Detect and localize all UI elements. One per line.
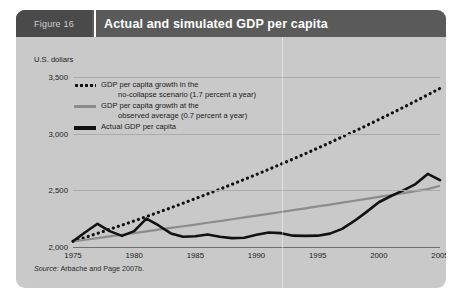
- gridline: [73, 77, 440, 78]
- legend-label-line1: Actual GDP per capita: [101, 122, 176, 131]
- y-axis-tick-label: 3,500: [28, 73, 68, 82]
- scan-artifact-line: [282, 37, 283, 288]
- source-note: Source: Arbache and Page 2007b.: [34, 264, 144, 273]
- legend-swatch-observed-average: [74, 105, 96, 108]
- y-axis-tick-label: 3,000: [28, 129, 68, 138]
- legend-swatch-actual: [74, 126, 96, 130]
- legend-item-observed-average: GDP per capita growth at theobserved ave…: [74, 101, 324, 120]
- legend-item-actual: Actual GDP per capita: [74, 122, 324, 132]
- figure-panel: Figure 16 Actual and simulated GDP per c…: [16, 10, 446, 288]
- plot-area: 2,0002,5003,0003,500 1975198019851990199…: [16, 37, 446, 288]
- x-axis-line: [73, 247, 440, 248]
- x-axis-tick-label: 1975: [53, 251, 93, 260]
- gridline: [73, 190, 440, 191]
- legend-swatch-no-collapse: [74, 84, 96, 87]
- x-axis-tick-label: 1995: [298, 251, 338, 260]
- header-divider: [94, 10, 96, 37]
- x-axis-tick-label: 2000: [359, 251, 399, 260]
- series-line-actual: [73, 174, 440, 241]
- figure-number-label: Figure 16: [34, 19, 74, 29]
- x-axis-tick-label: 2005: [420, 251, 446, 260]
- y-axis-tick-label: 2,500: [28, 186, 68, 195]
- figure-number-box: Figure 16: [16, 10, 92, 37]
- legend-label-line2: observed average (0.7 percent a year): [101, 111, 324, 121]
- legend-item-no-collapse: GDP per capita growth in theno-collapse …: [74, 80, 324, 99]
- source-text: Arbache and Page 2007b.: [59, 264, 144, 273]
- figure-title: Actual and simulated GDP per capita: [104, 10, 328, 37]
- x-axis-tick-label: 1985: [175, 251, 215, 260]
- legend-label-actual: Actual GDP per capita: [101, 122, 324, 132]
- legend-label-line1: GDP per capita growth in the: [101, 80, 198, 89]
- legend-label-observed-average: GDP per capita growth at theobserved ave…: [101, 101, 324, 120]
- legend-label-no-collapse: GDP per capita growth in theno-collapse …: [101, 80, 324, 99]
- source-prefix: Source:: [34, 264, 59, 273]
- legend-label-line2: no-collapse scenario (1.7 percent a year…: [101, 90, 324, 100]
- x-axis-tick-label: 1990: [237, 251, 277, 260]
- figure-body: U.S. dollars 2,0002,5003,0003,500 197519…: [16, 37, 446, 288]
- figure-header-bar: Figure 16 Actual and simulated GDP per c…: [16, 10, 446, 37]
- chart-legend: GDP per capita growth in theno-collapse …: [74, 80, 324, 134]
- x-axis-tick-label: 1980: [114, 251, 154, 260]
- legend-label-line1: GDP per capita growth at the: [101, 101, 199, 110]
